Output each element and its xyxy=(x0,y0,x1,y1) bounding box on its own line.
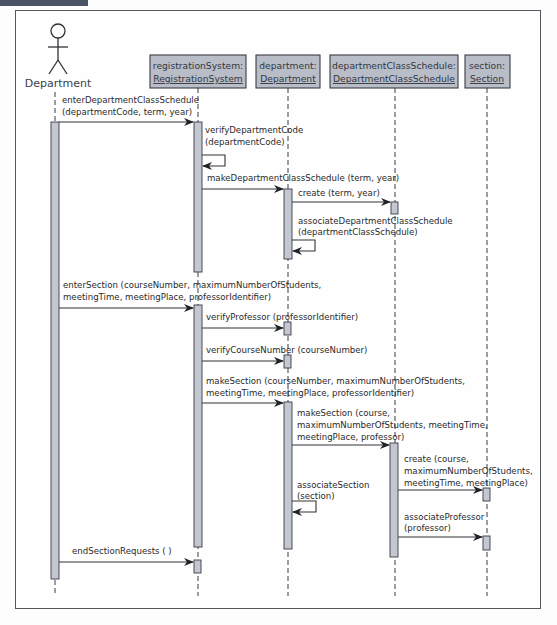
message-label: endSectionRequests ( ) xyxy=(72,546,172,556)
message-labels: enterDepartmentClassSchedule (department… xyxy=(62,95,533,556)
object-name: section: xyxy=(469,60,505,71)
message-label: meetingTime, meetingPlace, professorIden… xyxy=(63,292,271,302)
message-label: associateProfessor xyxy=(404,512,485,522)
activation-department-verifyCourseNumber xyxy=(284,355,291,368)
activation-dcs-2 xyxy=(390,443,398,557)
activation-section-create xyxy=(483,488,490,501)
message-label: verifyProfessor (professorIdentifier) xyxy=(206,312,358,322)
actor-label: Department xyxy=(25,77,92,90)
object-name: departmentClassSchedule: xyxy=(332,60,456,71)
actor-department: Department xyxy=(25,24,92,90)
activation-registrationSystem-end xyxy=(194,560,201,573)
message-label: create (term, year) xyxy=(298,188,380,198)
message-arrow-verifyDepartmentCode xyxy=(202,155,225,166)
activation-dcs-create xyxy=(391,202,398,214)
message-label: (professor) xyxy=(404,523,451,533)
message-label: maximumNumberOfStudents, xyxy=(404,466,533,476)
message-label: meetingTime, meetingPlace, professorIden… xyxy=(206,388,414,398)
object-name: department: xyxy=(259,60,316,71)
message-label: create (course, xyxy=(404,454,469,464)
message-label: maximumNumberOfStudents, meetingTime, xyxy=(297,420,488,430)
message-label: (departmentCode) xyxy=(205,137,285,147)
actor-head-icon xyxy=(51,24,65,38)
object-name: registrationSystem: xyxy=(153,60,243,71)
activation-section-associate xyxy=(483,536,490,550)
activation-registrationSystem-2 xyxy=(194,305,202,547)
activation-actor xyxy=(51,122,59,579)
message-label: associateDepartmentClassSchedule xyxy=(298,216,453,226)
object-department: department: Department xyxy=(256,55,320,88)
message-label: associateSection xyxy=(297,480,369,490)
message-label: makeSection (course, xyxy=(297,408,390,418)
message-arrow-associateDepartmentClassSchedule xyxy=(292,240,315,251)
message-label: (departmentClassSchedule) xyxy=(298,227,418,237)
object-departmentClassSchedule: departmentClassSchedule: DepartmentClass… xyxy=(330,55,458,88)
activation-department-verifyProfessor xyxy=(284,322,291,335)
message-label: (section) xyxy=(297,491,335,501)
activation-department-2 xyxy=(284,402,292,549)
message-label: enterDepartmentClassSchedule xyxy=(62,95,199,105)
message-label: (departmentCode, term, year) xyxy=(62,107,192,117)
object-class: RegistrationSystem xyxy=(153,73,243,84)
message-label: makeSection (courseNumber, maximumNumber… xyxy=(206,376,465,386)
message-label: meetingTime, meetingPlace) xyxy=(404,478,528,488)
message-label: verifyCourseNumber (courseNumber) xyxy=(206,345,367,355)
activation-department-1 xyxy=(284,189,292,259)
message-label: enterSection (courseNumber, maximumNumbe… xyxy=(63,280,321,290)
activation-registrationSystem-1 xyxy=(194,122,202,272)
object-class: Department xyxy=(260,73,316,84)
message-label: meetingPlace, professor) xyxy=(297,432,404,442)
message-label: verifyDepartmentCode xyxy=(205,125,303,135)
object-class: Section xyxy=(470,73,504,84)
object-registrationSystem: registrationSystem: RegistrationSystem xyxy=(150,55,246,88)
sequence-diagram: Department registrationSystem: Registrat… xyxy=(0,0,557,625)
object-section: section: Section xyxy=(465,55,510,88)
message-arrow-associateSection xyxy=(292,501,316,512)
message-label: makeDepartmentClassSchedule (term, year) xyxy=(207,173,399,183)
object-class: DepartmentClassSchedule xyxy=(333,73,455,84)
